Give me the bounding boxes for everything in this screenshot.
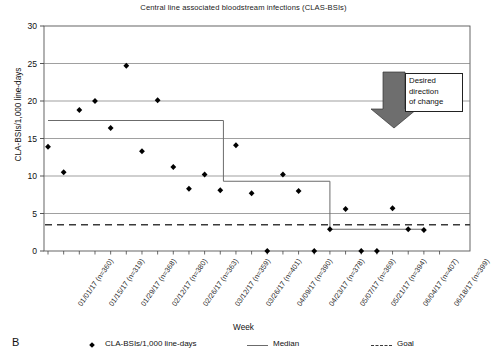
data-point	[343, 206, 349, 212]
data-point	[405, 226, 411, 232]
data-point	[76, 107, 82, 113]
y-axis-tick-label: 0	[32, 246, 37, 256]
data-point-diamond	[202, 172, 208, 178]
data-point-diamond	[233, 142, 239, 148]
data-point	[61, 169, 67, 175]
data-point-diamond	[186, 186, 192, 192]
data-point	[233, 142, 239, 148]
y-axis-tick-label: 10	[27, 171, 37, 181]
data-point	[311, 248, 317, 254]
data-point	[186, 186, 192, 192]
data-point-diamond	[217, 187, 223, 193]
dashed-line-marker-icon	[371, 345, 392, 346]
data-point-diamond	[92, 98, 98, 104]
data-point-diamond	[108, 125, 114, 131]
chart-legend: CLA-BSIs/1,000 line-days Median Goal	[0, 334, 487, 352]
data-point	[45, 144, 51, 150]
legend-label-median: Median	[273, 339, 299, 348]
data-point-diamond	[155, 97, 161, 103]
data-point	[421, 227, 427, 233]
data-point-diamond	[296, 188, 302, 194]
data-point	[139, 148, 145, 154]
data-point-diamond	[61, 169, 67, 175]
data-point	[92, 98, 98, 104]
data-point	[217, 187, 223, 193]
annotation-line-2: direction	[409, 87, 459, 98]
data-point-diamond	[374, 248, 380, 254]
legend-label-goal: Goal	[397, 339, 414, 348]
y-axis-tick-label: 20	[27, 96, 37, 106]
x-axis-label: Week	[0, 323, 487, 332]
data-point-diamond	[343, 206, 349, 212]
data-point-diamond	[311, 248, 317, 254]
legend-label-series: CLA-BSIs/1,000 line-days	[105, 339, 197, 348]
data-point	[390, 205, 396, 211]
data-point-diamond	[170, 164, 176, 170]
data-point	[264, 248, 270, 254]
data-point	[374, 248, 380, 254]
annotation-line-1: Desired	[409, 76, 459, 87]
data-point-diamond	[76, 107, 82, 113]
data-point	[296, 188, 302, 194]
data-point-diamond	[264, 248, 270, 254]
data-point	[108, 125, 114, 131]
median-step-line	[48, 121, 424, 230]
solid-line-marker-icon	[247, 345, 268, 346]
data-point-diamond	[280, 172, 286, 178]
data-point-diamond	[327, 226, 333, 232]
data-point-diamond	[139, 148, 145, 154]
data-point-diamond	[405, 226, 411, 232]
y-axis-tick-label: 5	[32, 209, 37, 219]
data-point	[170, 164, 176, 170]
y-axis-tick-label: 15	[27, 134, 37, 144]
data-point-diamond	[390, 205, 396, 211]
data-point	[280, 172, 286, 178]
annotation-desired-direction: Desired direction of change	[405, 73, 463, 112]
data-point	[202, 172, 208, 178]
data-point	[249, 190, 255, 196]
y-axis-tick-label: 25	[27, 59, 37, 69]
annotation-line-3: of change	[409, 97, 459, 108]
data-point-diamond	[358, 248, 364, 254]
y-axis-tick-label: 30	[27, 21, 37, 31]
data-point-diamond	[45, 144, 51, 150]
data-point-diamond	[421, 227, 427, 233]
data-point	[327, 226, 333, 232]
data-point-diamond	[249, 190, 255, 196]
data-point	[358, 248, 364, 254]
diamond-marker-icon	[89, 342, 95, 348]
data-point	[155, 97, 161, 103]
